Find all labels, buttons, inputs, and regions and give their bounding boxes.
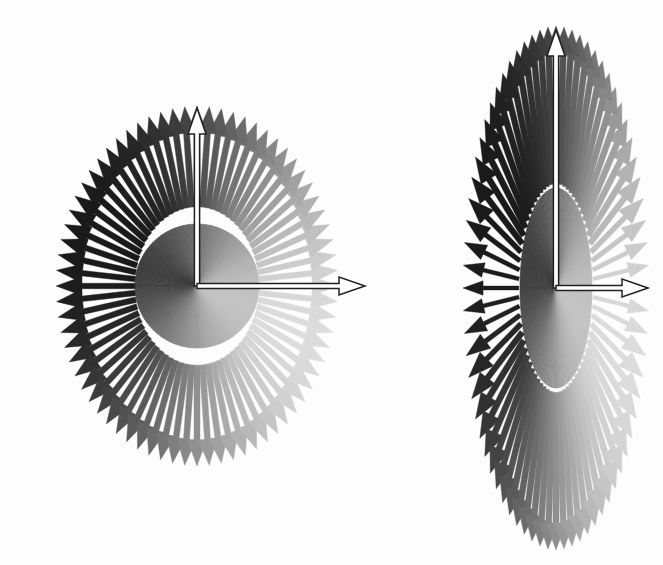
right-figure <box>463 26 649 550</box>
figure-canvas <box>0 0 663 565</box>
